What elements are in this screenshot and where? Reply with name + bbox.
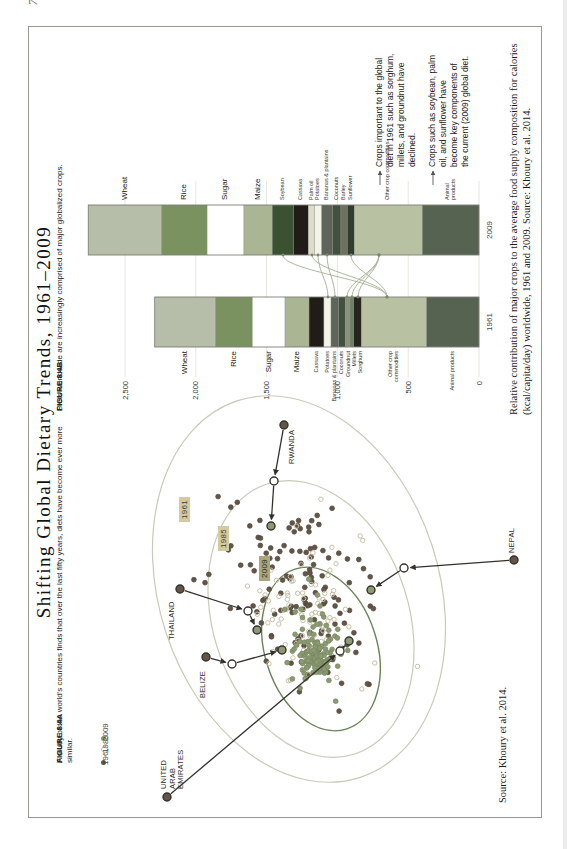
scatter-dot-2009 bbox=[314, 660, 319, 665]
crop-label-animal-products: Animal products bbox=[450, 351, 456, 441]
scatter-dot-1985 bbox=[330, 545, 334, 549]
country-label-rwanda: RWANDA bbox=[288, 430, 297, 464]
connector-curve bbox=[347, 255, 379, 297]
trajectory-arrow bbox=[237, 652, 276, 663]
scatter-dot-1985 bbox=[259, 605, 263, 609]
scatter-dot-1961 bbox=[298, 549, 303, 554]
scatter-dot-2009 bbox=[283, 607, 288, 612]
scatter-dot-1961 bbox=[203, 580, 208, 585]
figure-8-4a-caption-text: A study of the world's countries finds t… bbox=[55, 407, 76, 763]
crop-label-wheat: Wheat bbox=[121, 80, 129, 200]
connector-dot bbox=[334, 296, 337, 299]
highlight-marker-2009 bbox=[278, 646, 286, 654]
bar-segment-Groundnut bbox=[345, 297, 349, 347]
scatter-dot-1961 bbox=[247, 524, 252, 529]
scatter-dot-2009 bbox=[326, 639, 331, 644]
crop-label-rice: Rice bbox=[230, 351, 238, 441]
scatter-dot-1985 bbox=[245, 584, 249, 588]
scatter-dot-1985 bbox=[373, 661, 377, 665]
scatter-dot-1961 bbox=[308, 571, 313, 576]
crop-label-rice: Rice bbox=[180, 80, 188, 200]
connector-dot bbox=[327, 296, 330, 299]
scatter-dot-1985 bbox=[334, 562, 338, 566]
scatter-dot-1961 bbox=[309, 518, 314, 523]
axis-tick-label: 2,500 bbox=[121, 381, 130, 441]
scatter-dot-1961 bbox=[280, 578, 285, 583]
scatter-dot-1985 bbox=[328, 568, 332, 572]
connector-dot bbox=[386, 296, 389, 299]
trajectory-arrow bbox=[410, 560, 509, 567]
connector-dot bbox=[357, 296, 360, 299]
scatter-dot-2009 bbox=[335, 627, 340, 632]
scatter-dot-1961 bbox=[338, 611, 343, 616]
scatter-dot-2009 bbox=[300, 627, 305, 632]
scatter-dot-2009 bbox=[315, 622, 320, 627]
scatter-dot-1985 bbox=[360, 687, 364, 691]
highlight-marker-1985 bbox=[270, 477, 278, 485]
trajectory-arrow bbox=[171, 655, 335, 794]
trajectory-arrow bbox=[376, 571, 399, 587]
scatter-dot-1985 bbox=[415, 664, 419, 668]
scatter-dot-2009 bbox=[318, 604, 323, 609]
scatter-dot-1961 bbox=[269, 634, 274, 639]
scatter-dot-2009 bbox=[307, 643, 312, 648]
axis-tick-label: 500 bbox=[404, 381, 413, 441]
scatter-dot-2009 bbox=[327, 678, 332, 683]
scatter-dot-1961 bbox=[368, 574, 373, 579]
crop-label-wheat: Wheat bbox=[181, 351, 189, 441]
crop-label-sorghum: Sorghum bbox=[358, 351, 364, 441]
connector-dot bbox=[378, 254, 381, 257]
year-ellipse-label-1961: 1961 bbox=[179, 497, 190, 522]
scatter-dot-2009 bbox=[290, 676, 295, 681]
bar-segment-Other crop commodities bbox=[361, 297, 426, 347]
bar-segment-Coconuts bbox=[332, 205, 340, 255]
scatter-dot-1961 bbox=[192, 577, 197, 582]
scatter-dot-1961 bbox=[228, 606, 233, 611]
highlight-marker-1985 bbox=[400, 564, 408, 572]
scatter-dot-2009 bbox=[299, 607, 304, 612]
axis-tick-label: 2,000 bbox=[191, 381, 200, 441]
scatter-dot-1961 bbox=[206, 572, 211, 577]
scatter-dot-1961 bbox=[326, 556, 331, 561]
scatter-dot-1985 bbox=[328, 615, 332, 619]
crop-label-potatoes: Potatoes bbox=[325, 351, 331, 441]
scatter-dot-1961 bbox=[339, 681, 344, 686]
scatter-dot-1985 bbox=[335, 675, 339, 679]
scatter-dot-1985 bbox=[358, 534, 362, 538]
scatter-dot-1961 bbox=[275, 556, 280, 561]
crop-label-coconuts: Coconuts bbox=[334, 80, 340, 200]
scatter-dot-1985 bbox=[319, 497, 323, 501]
crop-label-sunflower: Sunflower bbox=[348, 80, 354, 200]
bar-segment-Palm oil bbox=[308, 205, 314, 255]
scatter-dot-1961 bbox=[354, 650, 359, 655]
axis-tick-label: 0 bbox=[475, 381, 484, 441]
scatter-dot-1961 bbox=[290, 549, 295, 554]
bar-segment-Wheat bbox=[155, 297, 216, 347]
bar-segment-Sugar bbox=[207, 205, 244, 255]
scatter-dot-1961 bbox=[264, 551, 269, 556]
scatter-dot-1985 bbox=[258, 589, 262, 593]
bar-segment-Wheat bbox=[88, 205, 162, 255]
scatter-dot-1985 bbox=[291, 656, 295, 660]
highlight-marker-1985 bbox=[244, 607, 252, 615]
scatter-dot-1985 bbox=[266, 621, 270, 625]
trajectory-arrow bbox=[250, 616, 254, 625]
scatter-dot-1961 bbox=[238, 563, 243, 568]
scatter-dot-2009 bbox=[317, 646, 322, 651]
crop-label-other-crop-commodities: Other crop commodities bbox=[388, 351, 400, 441]
scatter-dot-2009 bbox=[293, 632, 298, 637]
scatter-dot-1961 bbox=[248, 562, 253, 567]
scatter-dot-1961 bbox=[342, 621, 347, 626]
highlight-marker-2009 bbox=[345, 637, 353, 645]
crop-label-sugar: Sugar bbox=[221, 80, 229, 200]
scatter-dot-1961 bbox=[277, 549, 282, 554]
scatter-dot-1961 bbox=[303, 571, 308, 576]
figure-panel: Shifting Global Dietary Trends, 1961–200… bbox=[28, 26, 542, 818]
scatter-dot-1961 bbox=[259, 621, 264, 626]
annotation-declined-crops: Crops important to the global diet in 19… bbox=[374, 53, 418, 167]
bar-segment-Bananas & plantains bbox=[322, 205, 333, 255]
bar-segment-Cassava bbox=[294, 205, 309, 255]
figure-8-4b-description: Relative contribution of major crops to … bbox=[507, 25, 534, 415]
scatter-dot-1961 bbox=[321, 548, 326, 553]
scatter-dot-1961 bbox=[306, 525, 311, 530]
